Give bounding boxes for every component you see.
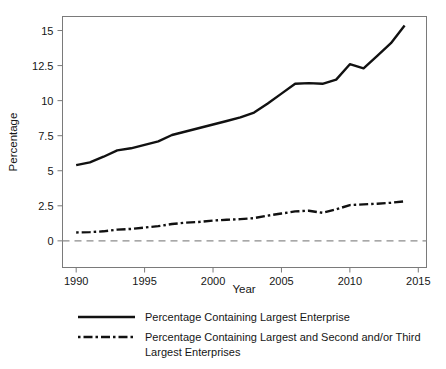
y-tick-label: 2.5 <box>38 200 53 212</box>
y-tick-label: 12.5 <box>32 60 53 72</box>
y-tick-label: 15 <box>41 25 53 37</box>
y-tick-label: 10 <box>41 95 53 107</box>
x-tick-label: 1995 <box>132 275 156 287</box>
y-tick-label: 5 <box>47 165 53 177</box>
legend-label-2-continued: Largest Enterprises <box>145 346 241 358</box>
legend-label-2: Percentage Containing Largest and Second… <box>145 331 421 343</box>
x-tick-label: 2015 <box>406 275 430 287</box>
chart-figure: 02.557.51012.515 19901995200020052010201… <box>0 0 446 369</box>
line-chart: 02.557.51012.515 19901995200020052010201… <box>0 0 446 369</box>
x-tick-label: 2005 <box>269 275 293 287</box>
legend-label-1: Percentage Containing Largest Enterprise <box>145 311 350 323</box>
x-axis-title: Year <box>232 283 255 295</box>
y-axis-title: Percentage <box>7 113 19 172</box>
x-tick-label: 2000 <box>201 275 225 287</box>
y-tick-label: 7.5 <box>38 130 53 142</box>
x-tick-label: 1990 <box>64 275 88 287</box>
y-tick-label: 0 <box>47 235 53 247</box>
x-tick-label: 2010 <box>338 275 362 287</box>
